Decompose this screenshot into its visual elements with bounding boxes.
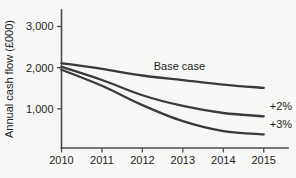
x-axis-tick-label: 2013 [171,154,195,166]
y-axis-title: Annual cash flow (£000) [3,20,15,138]
cash-flow-line-chart: 1,0002,0003,000 201020112012201320142015… [0,0,296,178]
y-axis-tick-label: 2,000 [26,62,54,74]
x-axis-tick-label: 2014 [211,154,235,166]
chart-container: 1,0002,0003,000 201020112012201320142015… [0,0,296,178]
x-axis-tick-label: 2015 [251,154,275,166]
x-axis-tick-label: 2011 [90,154,114,166]
x-axis-tick-label: 2010 [49,154,73,166]
series-label-2: +2% [270,100,293,112]
y-axis-tick-label: 3,000 [26,20,54,32]
series-label-base-case: Base case [154,60,205,72]
series-label-3: +3% [270,118,293,130]
x-axis-tick-label: 2012 [130,154,154,166]
y-axis-tick-label: 1,000 [26,103,54,115]
